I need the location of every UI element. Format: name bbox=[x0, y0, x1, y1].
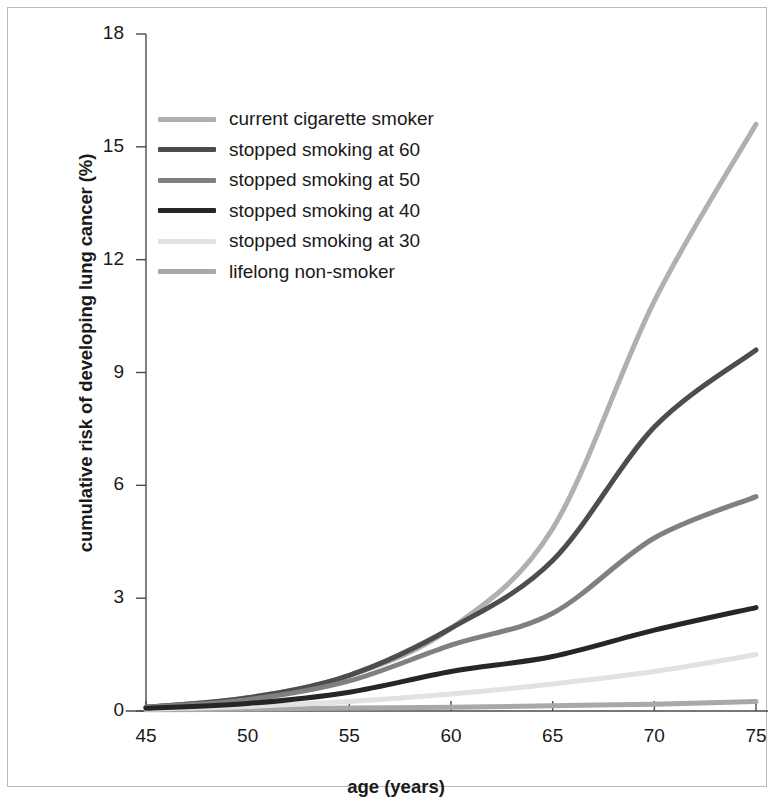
y-tick-label: 12 bbox=[78, 248, 124, 270]
y-tick-label: 0 bbox=[78, 699, 124, 721]
legend-swatch-icon bbox=[158, 178, 216, 183]
figure-canvas: 036912151845505560657075 cumulative risk… bbox=[0, 0, 776, 810]
x-tick-label: 50 bbox=[218, 725, 278, 747]
legend-swatch-icon bbox=[158, 269, 216, 274]
series-line-stopped-smoking-at-60 bbox=[146, 350, 756, 707]
legend-item: lifelong non-smoker bbox=[158, 257, 578, 288]
legend-item: stopped smoking at 30 bbox=[158, 226, 578, 257]
series-line-stopped-smoking-at-50 bbox=[146, 497, 756, 708]
x-tick-label: 60 bbox=[421, 725, 481, 747]
x-tick-label: 70 bbox=[624, 725, 684, 747]
legend-swatch-icon bbox=[158, 208, 216, 213]
legend-item-label: current cigarette smoker bbox=[229, 108, 434, 130]
y-tick-label: 18 bbox=[78, 22, 124, 44]
x-axis-label: age (years) bbox=[8, 776, 776, 798]
y-tick-label: 6 bbox=[78, 473, 124, 495]
figure-frame: 036912151845505560657075 cumulative risk… bbox=[7, 7, 767, 787]
x-tick-label: 65 bbox=[523, 725, 583, 747]
x-tick-label: 45 bbox=[116, 725, 176, 747]
legend-item-label: stopped smoking at 50 bbox=[229, 169, 420, 191]
legend-item: current cigarette smoker bbox=[158, 104, 578, 135]
legend-item-label: stopped smoking at 40 bbox=[229, 200, 420, 222]
chart-legend: current cigarette smokerstopped smoking … bbox=[158, 104, 578, 287]
legend-item-label: stopped smoking at 60 bbox=[229, 139, 420, 161]
y-tick-label: 3 bbox=[78, 586, 124, 608]
legend-swatch-icon bbox=[158, 117, 216, 122]
y-tick-label: 15 bbox=[78, 135, 124, 157]
x-tick-label: 75 bbox=[726, 725, 776, 747]
legend-item: stopped smoking at 40 bbox=[158, 196, 578, 227]
legend-item-label: stopped smoking at 30 bbox=[229, 230, 420, 252]
legend-item-label: lifelong non-smoker bbox=[229, 261, 395, 283]
legend-swatch-icon bbox=[158, 239, 216, 244]
legend-swatch-icon bbox=[158, 147, 216, 152]
x-tick-label: 55 bbox=[319, 725, 379, 747]
y-tick-label: 9 bbox=[78, 361, 124, 383]
legend-item: stopped smoking at 50 bbox=[158, 165, 578, 196]
legend-item: stopped smoking at 60 bbox=[158, 135, 578, 166]
